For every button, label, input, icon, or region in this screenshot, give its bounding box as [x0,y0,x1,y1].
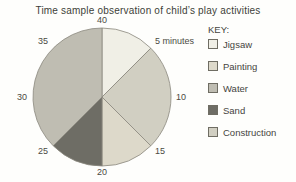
tick-label-10: 10 [176,92,186,102]
tick-label-35: 35 [38,36,48,46]
key-item-label: Water [223,83,248,94]
tick-label-40: 40 [97,15,107,25]
key-items: JigsawPaintingWaterSandConstruction [208,39,276,137]
figure: Time sample observation of child’s play … [0,0,296,182]
key-swatch-construction [208,127,218,137]
tick-label-20: 20 [97,167,107,177]
key-swatch-painting [208,61,218,71]
key-swatch-water [208,83,218,93]
key-item-sand: Sand [208,105,276,115]
tick-label-25: 25 [38,146,48,156]
tick-label-5: 5 minutes [155,36,195,46]
key-item-label: Jigsaw [223,39,252,50]
key-item-label: Sand [223,105,245,116]
key-item-label: Construction [223,127,276,138]
key-swatch-sand [208,105,218,115]
key-legend: KEY: JigsawPaintingWaterSandConstruction [208,24,276,149]
key-heading: KEY: [208,24,276,35]
key-item-label: Painting [223,61,257,72]
key-item-painting: Painting [208,61,276,71]
tick-label-30: 30 [17,92,27,102]
key-item-construction: Construction [208,127,276,137]
key-item-jigsaw: Jigsaw [208,39,276,49]
tick-label-15: 15 [155,146,165,156]
pie-chart: 5 minutes10152025303540 [0,14,206,182]
key-swatch-jigsaw [208,39,218,49]
key-item-water: Water [208,83,276,93]
